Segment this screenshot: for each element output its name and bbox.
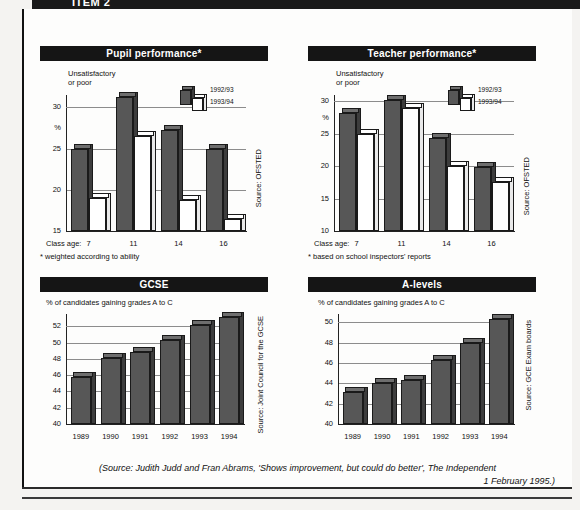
bar-face: [492, 182, 509, 231]
gridline: [338, 363, 514, 364]
x-axis-tick-label: 1993: [185, 432, 215, 441]
bar-face: [401, 380, 421, 424]
bar-teacher-7-1993-94: [357, 134, 374, 231]
bar-side: [106, 193, 111, 231]
bar-face: [384, 100, 401, 231]
bar-teacher-11-1993-94: [402, 108, 419, 231]
y-axis-tick-label: 44: [45, 386, 61, 395]
bar-top: [209, 144, 226, 149]
bar-top: [137, 131, 154, 136]
bar-side: [196, 195, 201, 231]
y-axis-tick-label: 42: [317, 399, 333, 408]
legend-swatch-dark: [180, 90, 191, 105]
bar-side: [180, 335, 185, 424]
bar-side: [374, 129, 379, 231]
bar-top: [345, 387, 365, 392]
bar-side: [151, 131, 156, 231]
chart-panel-teacher: Teacher performance*: [308, 46, 536, 61]
bar-top: [222, 312, 242, 317]
chart-title-pupil: Pupil performance*: [40, 46, 268, 61]
bar-top: [194, 94, 205, 98]
x-axis-tick-label: 1990: [367, 432, 396, 441]
bar-face: [89, 198, 106, 231]
x-axis-tick-label: 1989: [66, 432, 96, 441]
bar-face: [402, 108, 419, 231]
x-axis-tick-label: 16: [469, 239, 514, 248]
bar-teacher-7-1992-93: [339, 113, 356, 231]
bar-teacher-16-1992-93: [474, 167, 491, 231]
bar-alevels-1990-% grades A to C: [372, 383, 392, 424]
bar-face: [489, 319, 509, 424]
chart-title-teacher: Teacher performance*: [308, 46, 536, 61]
chart-panel-pupil: Pupil performance*: [40, 46, 268, 61]
x-axis-tick-label: 14: [156, 239, 201, 248]
bar-side: [451, 355, 456, 424]
bar-side: [150, 347, 155, 424]
bar-top: [433, 355, 453, 360]
item-banner: ITEM 2: [32, 0, 580, 9]
plot-area-alevels: % of candidates gaining grades A to C So…: [308, 292, 548, 452]
bar-top: [182, 86, 193, 90]
bar-teacher-14-1993-94: [447, 166, 464, 231]
chart-footnote-teacher: * based on school inspectors' reports: [308, 252, 431, 261]
bar-gcse-1992-% grades A to C: [160, 340, 180, 424]
legend-swatch-light: [192, 98, 203, 111]
y-axis-tick-label: 25: [313, 129, 329, 138]
bar-face: [161, 130, 178, 231]
bar-side: [480, 338, 485, 424]
bar-top: [432, 133, 449, 138]
x-axis-tick-label: 1991: [397, 432, 426, 441]
bar-top: [360, 129, 377, 134]
bar-side: [363, 387, 368, 424]
bar-top: [192, 320, 212, 325]
caption-line-1: (Source: Judith Judd and Fran Abrams, 'S…: [40, 462, 555, 475]
x-axis-tick-label: 1992: [426, 432, 455, 441]
chart-subtitle-alevels: % of candidates gaining grades A to C: [318, 298, 445, 307]
bar-face: [474, 167, 491, 231]
x-axis-line: [338, 424, 515, 425]
x-axis-prefix-label: Class age:: [314, 239, 349, 248]
y-axis-tick-label: 44: [317, 378, 333, 387]
bar-face: [343, 392, 363, 424]
bar-face: [339, 113, 356, 231]
bar-top: [119, 92, 136, 97]
bar-pupil-16-1993-94: [224, 219, 241, 231]
plot-top-border: [338, 322, 514, 323]
plot-area-pupil: Unsatisfactory or poor Source: OFSTED 15…: [40, 61, 280, 261]
footer-rule: [22, 497, 572, 499]
chart-subtitle-gcse: % of candidates gaining grades A to C: [46, 298, 173, 307]
bar-top: [375, 378, 395, 383]
bar-face: [429, 138, 446, 231]
bar-top: [404, 375, 424, 380]
bar-alevels-1989-% grades A to C: [343, 392, 363, 424]
chart-panel-alevels: A-levels: [308, 277, 536, 292]
y-axis-tick-label: 20: [45, 185, 61, 194]
bar-top: [450, 161, 467, 166]
figure-caption: (Source: Judith Judd and Fran Abrams, 'S…: [40, 462, 555, 488]
bar-top: [495, 177, 512, 182]
bar-teacher-14-1992-93: [429, 138, 446, 231]
bar-alevels-1992-% grades A to C: [431, 360, 451, 424]
plot-top-border: [66, 326, 244, 327]
bar-face: [116, 97, 133, 231]
bar-face: [180, 90, 191, 105]
bar-face: [460, 98, 471, 111]
chart-subtitle-teacher: Unsatisfactory or poor: [336, 69, 384, 88]
x-axis-line: [334, 231, 515, 232]
bar-face: [71, 149, 88, 231]
y-axis-tick-label: 46: [45, 370, 61, 379]
bar-face: [190, 325, 210, 424]
y-axis-line: [66, 95, 67, 232]
bar-top: [182, 195, 199, 200]
y-axis-tick-label: 48: [317, 338, 333, 347]
y-axis-line: [334, 95, 335, 232]
figure-page: ITEM 2 Pupil performance* Unsatisfactory…: [0, 0, 580, 510]
bar-top: [133, 347, 153, 352]
legend-swatch-light: [460, 98, 471, 111]
legend-label-1993-94: 1993/94: [478, 98, 502, 105]
chart-footnote-pupil: * weighted according to ability: [40, 252, 139, 261]
caption-line-2: 1 February 1995.): [40, 475, 555, 488]
bar-gcse-1990-% grades A to C: [101, 358, 121, 424]
gridline: [66, 343, 244, 344]
bar-pupil-14-1992-93: [161, 130, 178, 231]
